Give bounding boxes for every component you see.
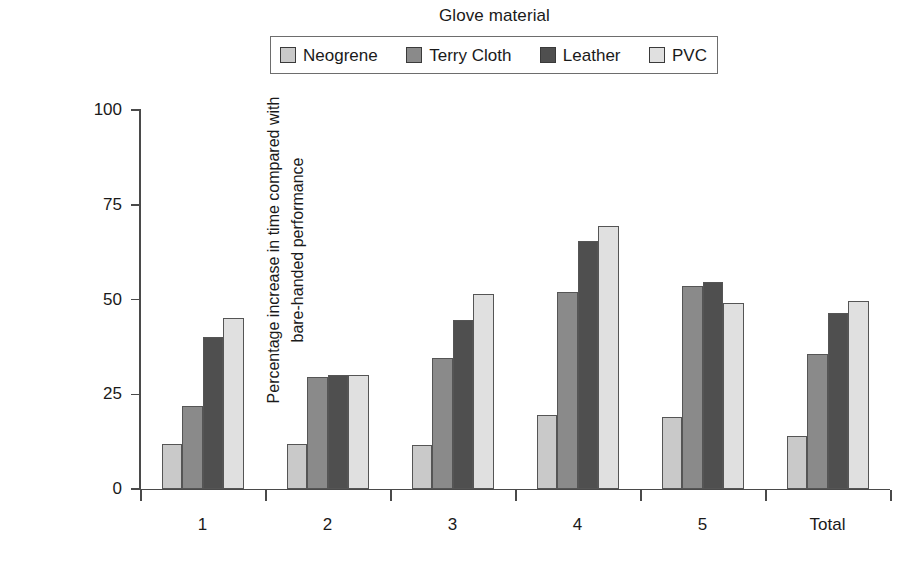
y-axis-tick-label: 0: [62, 480, 122, 497]
y-axis-tick-label: 100: [62, 101, 122, 118]
bar: [412, 445, 433, 489]
bar: [662, 417, 683, 489]
bar: [453, 320, 474, 489]
legend-item-label: Leather: [563, 46, 621, 65]
bar: [682, 286, 703, 489]
bar: [848, 301, 869, 489]
x-axis-category-label: 3: [390, 515, 515, 534]
bar: [787, 436, 808, 489]
bar-chart: Glove material NeogreneTerry ClothLeathe…: [0, 0, 922, 561]
bar: [348, 375, 369, 489]
y-axis-tick-label: 75: [62, 196, 122, 213]
bar: [287, 444, 308, 489]
plot-area: [140, 110, 890, 489]
x-axis-tick: [265, 490, 267, 501]
bar: [328, 375, 349, 489]
bar: [537, 415, 558, 489]
y-axis-tick: [131, 109, 140, 111]
bar: [182, 406, 203, 489]
bar: [557, 292, 578, 489]
x-axis-tick: [765, 490, 767, 501]
legend-item-leather[interactable]: Leather: [540, 46, 621, 65]
y-axis-tick: [131, 299, 140, 301]
x-axis-category-label: 4: [515, 515, 640, 534]
x-axis-tick: [890, 490, 892, 501]
x-axis-category-label: 2: [265, 515, 390, 534]
bar: [703, 282, 724, 489]
x-axis-category-label: Total: [765, 515, 890, 534]
legend-swatch-icon: [649, 47, 665, 63]
bar: [473, 294, 494, 489]
x-axis-tick: [640, 490, 642, 501]
bar: [223, 318, 244, 489]
bar: [828, 313, 849, 489]
bar: [578, 241, 599, 489]
bar: [203, 337, 224, 489]
y-axis-tick: [131, 394, 140, 396]
legend-item-pvc[interactable]: PVC: [649, 46, 707, 65]
bar: [723, 303, 744, 489]
x-axis-tick: [515, 490, 517, 501]
y-axis-tick: [131, 204, 140, 206]
bar: [162, 444, 183, 489]
bar: [598, 226, 619, 489]
y-axis-tick-label: 50: [62, 291, 122, 308]
bar: [432, 358, 453, 489]
x-axis-category-label: 5: [640, 515, 765, 534]
y-axis-tick: [131, 488, 140, 490]
y-axis-tick-label: 25: [62, 385, 122, 402]
bar: [807, 354, 828, 489]
x-axis-category-label: 1: [140, 515, 265, 534]
x-axis-tick: [140, 490, 142, 501]
legend-item-label: PVC: [672, 46, 707, 65]
x-axis-tick: [390, 490, 392, 501]
y-axis-title: Percentage increase in time compared wit…: [0, 0, 60, 500]
bar: [307, 377, 328, 489]
